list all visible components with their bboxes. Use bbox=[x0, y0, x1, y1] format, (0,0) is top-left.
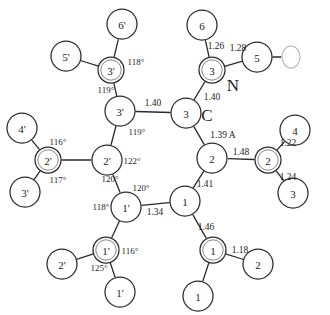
bond-length-label-bl-12: 1.18 bbox=[232, 245, 249, 255]
atom-label-sub-1: 1 bbox=[210, 245, 216, 257]
molecular-structure-diagram: 3'32'21'13'6'5'3652'4'3'2431'2'1'121 1.4… bbox=[0, 0, 330, 315]
atom-node-sub-1p[interactable]: 1' bbox=[93, 237, 119, 263]
bond-line-sub-2p-to-sub-3pb bbox=[34, 171, 39, 179]
bond-length-label-bl-2: 1.40 bbox=[204, 92, 221, 102]
bond-angle-label-ag-6: 120° bbox=[132, 183, 150, 193]
bond-length-label-bl-7: 1.22 bbox=[280, 138, 297, 148]
atom-node-sub-4p[interactable]: 4' bbox=[7, 113, 37, 143]
atom-node-sub-2[interactable]: 2 bbox=[255, 147, 281, 173]
atom-node-ring-1p[interactable]: 1' bbox=[111, 192, 141, 222]
atom-node-sub-3b[interactable]: 3 bbox=[278, 178, 308, 208]
atom-label-sub-3b: 3 bbox=[290, 188, 296, 200]
atom-label-sub-1pb: 1' bbox=[116, 287, 124, 299]
bond-line-sub-3p-to-sub-6p bbox=[114, 40, 118, 57]
atom-node-sub-2p[interactable]: 2' bbox=[35, 147, 61, 173]
atom-label-ring-1p: 1' bbox=[122, 202, 130, 214]
bond-angle-label-ag-9: 117° bbox=[50, 175, 67, 185]
atom-label-sub-2pb: 2' bbox=[58, 259, 66, 271]
bond-line-ring-1p-to-sub-1p bbox=[112, 222, 119, 238]
atom-label-sub-5: 5 bbox=[254, 52, 260, 64]
atom-label-sub-6: 6 bbox=[199, 20, 205, 32]
atom-node-sub-2pb[interactable]: 2' bbox=[47, 249, 77, 279]
bond-angle-label-ag-11: 125° bbox=[90, 263, 108, 273]
bond-angle-label-ag-2: 119° bbox=[98, 85, 115, 95]
bond-line-sub-1p-to-sub-1pb bbox=[110, 263, 115, 277]
atom-node-ring-3p[interactable]: 3' bbox=[105, 96, 135, 126]
bond-line-ring-3p-to-ring-2p bbox=[111, 126, 116, 144]
atom-label-sub-3: 3 bbox=[209, 65, 215, 77]
atom-node-ring-1[interactable]: 1 bbox=[170, 186, 200, 216]
bond-line-ring-2-to-ring-3 bbox=[194, 127, 204, 144]
atom-node-sub-3[interactable]: 3 bbox=[199, 57, 225, 83]
atom-label-sub-2p: 2' bbox=[44, 155, 52, 167]
atom-label-sub-1b: 1 bbox=[195, 291, 201, 303]
molecule-svg-canvas: 3'32'21'13'6'5'3652'4'3'2431'2'1'121 1.4… bbox=[0, 0, 330, 315]
bond-angle-label-ag-8: 116° bbox=[50, 137, 67, 147]
bond-length-label-bl-11: 1.46 bbox=[198, 222, 215, 232]
atom-label-sub-5p: 5' bbox=[62, 51, 70, 63]
bond-line-ring-3p-to-ring-3 bbox=[136, 111, 170, 112]
atom-node-sub-3p[interactable]: 3' bbox=[98, 57, 124, 83]
atom-node-sub-6[interactable]: 6 bbox=[187, 10, 217, 40]
bond-angle-label-ag-3: 119° bbox=[129, 127, 146, 137]
atom-node-sub-1[interactable]: 1 bbox=[200, 237, 226, 263]
bond-angle-label-ag-1: 118° bbox=[128, 57, 145, 67]
bond-line-sub-3-to-sub-5 bbox=[225, 61, 241, 66]
element-symbol-c: C bbox=[201, 106, 212, 125]
atom-label-ring-1: 1 bbox=[182, 196, 188, 208]
atom-node-sub-1pb[interactable]: 1' bbox=[105, 277, 135, 307]
bond-line-ring-1p-to-ring-1 bbox=[142, 203, 169, 206]
bond-angle-label-ag-7: 118° bbox=[93, 202, 110, 212]
bond-length-label-bl-9: 1.41 bbox=[197, 179, 214, 189]
bond-angle-label-ag-10: 116° bbox=[122, 246, 139, 256]
bond-length-label-bl-4: 1.28 bbox=[230, 43, 247, 53]
atom-node-sub-5p[interactable]: 5' bbox=[51, 41, 81, 71]
bond-line-sub-1p-to-sub-2pb bbox=[77, 254, 92, 259]
atom-node-sub-3pb[interactable]: 3' bbox=[10, 177, 40, 207]
atom-node-ring-2[interactable]: 2 bbox=[197, 143, 227, 173]
bond-line-sub-3p-to-sub-5p bbox=[81, 61, 97, 66]
atom-node-sub-1b[interactable]: 1 bbox=[183, 281, 213, 311]
bond-length-label-bl-1: 1.40 bbox=[145, 98, 162, 108]
atom-label-sub-1p: 1' bbox=[102, 245, 110, 257]
atom-node-ring-3[interactable]: 3 bbox=[171, 98, 201, 128]
atoms-layer: 3'32'21'13'6'5'3652'4'3'2431'2'1'121 bbox=[7, 9, 310, 311]
atom-label-sub-2: 2 bbox=[265, 155, 271, 167]
atom-label-sub-4: 4 bbox=[292, 125, 298, 137]
atom-label-sub-2b: 2 bbox=[255, 259, 261, 271]
bond-length-label-bl-10: 1.34 bbox=[147, 207, 164, 217]
atom-node-sub-5[interactable]: 5 bbox=[242, 42, 272, 72]
bond-line-sub-2p-to-sub-4p bbox=[32, 140, 39, 149]
bond-length-label-bl-5: 1.39 A bbox=[210, 130, 235, 140]
bond-line-ring-2-to-sub-2 bbox=[228, 159, 254, 160]
bond-angle-label-ag-5: 120° bbox=[101, 174, 119, 184]
bond-angle-label-ag-4: 122° bbox=[123, 156, 141, 166]
bond-length-label-bl-8: 1.24 bbox=[280, 172, 297, 182]
terminal-oval-icon bbox=[282, 46, 300, 68]
element-symbol-n: N bbox=[227, 76, 239, 95]
bond-line-sub-1-to-sub-1b bbox=[203, 263, 209, 280]
atom-label-ring-3p: 3' bbox=[116, 106, 124, 118]
atom-label-sub-6p: 6' bbox=[118, 19, 126, 31]
atom-label-sub-3pb: 3' bbox=[21, 187, 29, 199]
bond-length-label-bl-6: 1.48 bbox=[233, 147, 250, 157]
atom-node-sub-6p[interactable]: 6' bbox=[107, 9, 137, 39]
atom-label-sub-4p: 4' bbox=[18, 123, 26, 135]
atom-label-ring-2p: 2' bbox=[103, 155, 111, 167]
atom-label-ring-2: 2 bbox=[209, 153, 215, 165]
atom-label-ring-3: 3 bbox=[183, 108, 189, 120]
atom-label-sub-3p: 3' bbox=[107, 65, 115, 77]
bond-length-label-bl-3: 1.26 bbox=[208, 41, 225, 51]
atom-node-ring-2p[interactable]: 2' bbox=[92, 145, 122, 175]
